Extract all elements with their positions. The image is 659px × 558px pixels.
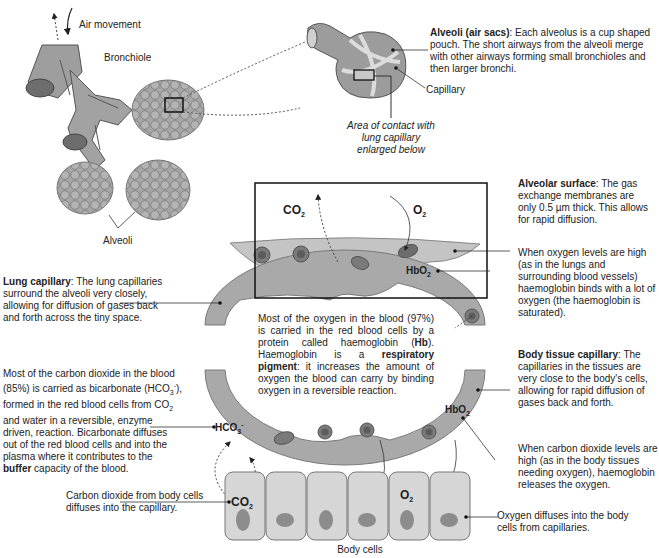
- capillary-label: Capillary: [426, 84, 465, 96]
- area-of-contact-label: Area of contact with lung capillary enla…: [345, 120, 437, 156]
- body-cells-row: [225, 472, 470, 540]
- alveoli-cluster-right: [132, 80, 204, 140]
- oxygen-high-description: When oxygen levels are high (as in the l…: [518, 247, 658, 319]
- alveoli-sacs-title: Alveoli (air sacs): [430, 27, 509, 38]
- hco3-label: HCO3-: [215, 421, 243, 435]
- oxygen-blood-description: Most of the oxygen in the blood (97%) is…: [258, 313, 434, 397]
- alveolar-surface-title: Alveolar surface: [518, 178, 596, 189]
- co2-blood-description: Most of the carbon dioxide in the blood …: [3, 368, 183, 475]
- o2-label-top: O2: [413, 203, 426, 218]
- co2-body-description: Carbon dioxide from body cells diffuses …: [66, 490, 216, 514]
- hbo2-label-top: HbO2: [406, 265, 431, 278]
- o2-body-description: Oxygen diffuses into the body cells from…: [497, 510, 647, 534]
- bronchiole-label: Bronchiole: [104, 52, 151, 64]
- alveolar-surface-description: Alveolar surface: The gas exchange membr…: [518, 178, 653, 226]
- lung-capillary-title: Lung capillary: [3, 276, 71, 287]
- alveoli-sacs-description: Alveoli (air sacs): Each alveolus is a c…: [430, 27, 658, 75]
- alveoli-label: Alveoli: [103, 235, 132, 247]
- body-cells-label: Body cells: [320, 544, 400, 556]
- co2-high-description: When carbon dioxide levels are high (as …: [518, 443, 658, 491]
- o2-label-bottom: O2: [400, 488, 413, 503]
- air-movement-label: Air movement: [79, 19, 141, 31]
- body-tissue-capillary-title: Body tissue capillary: [518, 349, 618, 360]
- co2-label-top: CO2: [283, 203, 305, 218]
- co2-label-bottom: CO2: [231, 495, 253, 510]
- lung-capillary-description: Lung capillary: The lung capillaries sur…: [3, 276, 163, 324]
- body-tissue-capillary-description: Body tissue capillary: The capillaries i…: [518, 349, 658, 409]
- hbo2-label-bottom: HbO2: [445, 404, 470, 417]
- air-movement-arrows-icon: [54, 8, 72, 40]
